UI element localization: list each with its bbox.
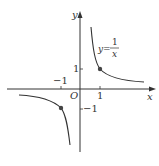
hyperbola-graph bbox=[0, 0, 159, 166]
tick-y-neg1: −1 bbox=[83, 104, 98, 114]
curve-branch-positive bbox=[91, 27, 144, 82]
point-1-1 bbox=[98, 67, 102, 71]
x-axis-label: x bbox=[147, 92, 153, 102]
curve-branch-negative bbox=[19, 95, 70, 145]
point-neg1-neg1 bbox=[59, 106, 63, 110]
function-denominator: x bbox=[112, 49, 117, 59]
origin-label: O bbox=[70, 91, 78, 101]
tick-y-1: 1 bbox=[73, 64, 79, 74]
tick-x-neg1: −1 bbox=[53, 76, 68, 86]
function-lhs: y= bbox=[98, 44, 111, 54]
function-numerator: 1 bbox=[112, 37, 118, 47]
y-axis-label: y bbox=[72, 10, 78, 20]
tick-x-1: 1 bbox=[97, 91, 103, 101]
y-axis-arrow-icon bbox=[78, 11, 83, 18]
